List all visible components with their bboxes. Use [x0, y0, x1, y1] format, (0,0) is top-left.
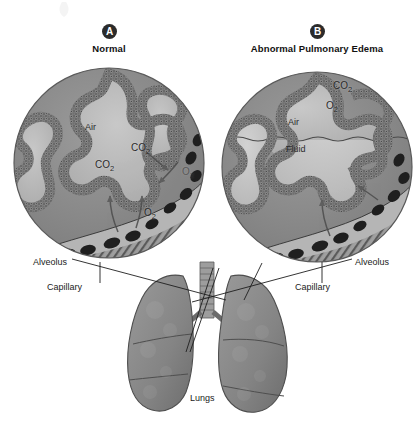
panel-b-co2-label-1: CO2	[333, 81, 352, 94]
panel-a-air-label: Air	[85, 123, 96, 132]
panel-b-badge: B	[310, 24, 325, 39]
panel-b-artwork	[222, 72, 416, 272]
page-curl-watermark	[60, 2, 69, 17]
illustration-svg	[0, 0, 418, 425]
panel-a-o2-label-2: O2	[144, 208, 156, 221]
panel-b-badge-letter: B	[314, 26, 321, 37]
panel-a-badge-letter: A	[106, 26, 113, 37]
panel-a-badge: A	[102, 24, 117, 39]
panel-b-title: Abnormal Pulmonary Edema	[227, 44, 407, 54]
panel-a-o2-label-1: O2	[182, 167, 194, 180]
panel-a-title: Normal	[39, 44, 179, 54]
panel-b-capillary-callout: Capillary	[295, 283, 330, 292]
panel-a-capillary-callout: Capillary	[47, 283, 82, 292]
panel-b-o2-label-1: O2	[326, 101, 338, 114]
panel-a-alveolus-callout: Alveolus	[33, 258, 67, 267]
panel-b-air-label: Air	[288, 118, 299, 127]
diagram-canvas: A Normal B Abnormal Pulmonary Edema Air …	[0, 0, 418, 425]
panel-b-fluid-label: Fluid	[286, 145, 306, 154]
panel-a-co2-label-2: CO2	[95, 160, 114, 173]
panel-a-co2-label-1: CO2	[131, 143, 150, 156]
lungs-label: Lungs	[190, 394, 215, 403]
panel-b-alveolus-callout: Alveolus	[355, 258, 389, 267]
